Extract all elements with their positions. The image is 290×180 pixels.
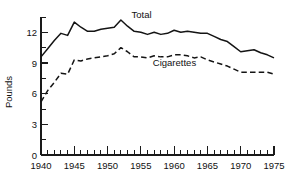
y-tick-label: 9 xyxy=(32,58,37,69)
x-tick-label: 1950 xyxy=(97,160,118,171)
chart-canvas: 036912 19401945195019551960196519701975 … xyxy=(0,0,290,180)
y-tick-label: 3 xyxy=(32,119,37,130)
x-tick-label: 1970 xyxy=(230,160,251,171)
x-tick-label: 1960 xyxy=(164,160,185,171)
y-axis: 036912 xyxy=(26,17,48,161)
series-annotations: TotalCigarettes xyxy=(132,9,197,68)
x-tick-label: 1965 xyxy=(197,160,218,171)
x-tick-label: 1945 xyxy=(64,160,85,171)
x-tick-label: 1940 xyxy=(30,160,51,171)
y-tick-label: 6 xyxy=(32,88,37,99)
tobacco-consumption-chart: 036912 19401945195019551960196519701975 … xyxy=(0,0,290,180)
y-tick-label: 0 xyxy=(32,150,37,161)
x-tick-label: 1955 xyxy=(130,160,151,171)
x-axis: 19401945195019551960196519701975 xyxy=(30,146,284,171)
y-tick-label: 12 xyxy=(26,27,37,38)
y-axis-title: Pounds xyxy=(3,76,14,108)
series-line-cigarettes xyxy=(41,48,274,102)
series-label-total: Total xyxy=(132,9,152,20)
x-tick-label: 1975 xyxy=(263,160,284,171)
series-label-cigarettes: Cigarettes xyxy=(153,57,197,68)
series-line-total xyxy=(41,20,274,58)
